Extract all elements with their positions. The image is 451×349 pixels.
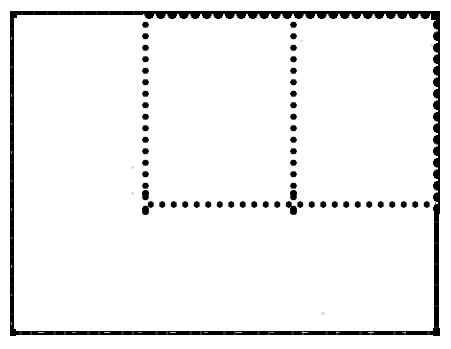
right-border-scallop-notches: [430, 18, 438, 214]
divider-dotted-vertical-right: [290, 19, 297, 215]
corner-blob-top-left: [10, 11, 17, 18]
figure-title: [0, 0, 1, 1]
corner-blob-bottom-right: [433, 328, 440, 336]
junction-dot-center-below: [290, 208, 297, 215]
divider-dotted-vertical-left: [142, 19, 149, 215]
outer-frame-right-thin-segment: [434, 212, 439, 336]
cell-upper-right-label: [0, 0, 1, 1]
corner-blob-bottom-left: [10, 329, 16, 336]
cell-upper-middle-label: [0, 0, 1, 1]
junction-dot-center-above: [290, 190, 297, 197]
junction-dot-left-below: [142, 208, 149, 215]
scan-speck: [131, 192, 134, 195]
outer-frame-left-border: [10, 11, 14, 336]
divider-dotted-horizontal: [145, 201, 436, 208]
scan-speck: [430, 44, 433, 47]
cell-upper-left-label: [0, 0, 1, 1]
scan-speck: [131, 166, 134, 169]
outer-frame-top-thin-segment: [10, 11, 147, 15]
scan-speck: [321, 312, 325, 315]
outer-frame-bottom-border: [10, 331, 439, 335]
figure-canvas: [0, 0, 451, 349]
corner-blob-top-right: [431, 11, 440, 20]
cell-lower-label: [0, 0, 1, 1]
scan-speck: [300, 40, 303, 42]
junction-dot-left-above: [142, 190, 149, 197]
